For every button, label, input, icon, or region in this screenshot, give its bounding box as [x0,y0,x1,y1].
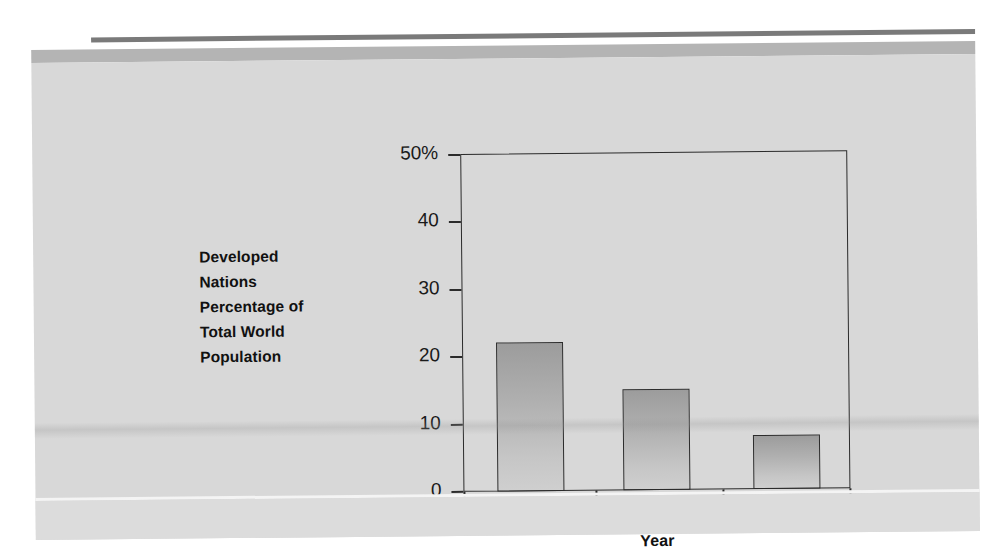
y-tick-label-10: 10 [385,412,441,435]
y-tick-label-30: 30 [383,277,439,300]
y-tick-30 [450,289,462,291]
y-tick-10 [451,424,463,426]
bar-2050 [753,434,821,489]
y-axis-label: Developed Nations Percentage of Total Wo… [199,243,370,370]
top-rule-line [91,29,975,42]
bar-chart: Developed Nations Percentage of Total Wo… [192,90,856,526]
y-tick-label-50: 50% [374,142,438,165]
y-axis-label-line-3: Percentage of [200,293,370,320]
scanned-chart-page: Developed Nations Percentage of Total Wo… [0,0,1008,559]
y-tick-40 [449,221,461,223]
y-tick-50 [448,154,460,156]
bar-2000 [622,389,690,491]
y-tick-20 [450,356,462,358]
y-axis-label-line-1: Developed [199,243,369,270]
y-axis-label-line-5: Population [200,343,370,370]
y-axis-label-line-4: Total World [200,318,370,345]
y-tick-0 [451,491,463,493]
y-axis-label-line-2: Nations [199,268,369,295]
y-tick-label-20: 20 [384,344,440,367]
scan-sheet: Developed Nations Percentage of Total Wo… [31,21,980,542]
y-tick-label-40: 40 [383,209,439,232]
page-body: Developed Nations Percentage of Total Wo… [31,54,980,540]
bar-1950 [496,342,564,492]
